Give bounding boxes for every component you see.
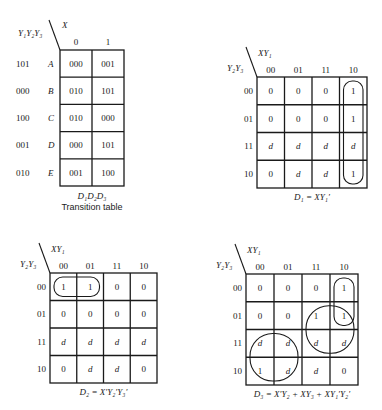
row-header: 01	[37, 309, 46, 319]
kmap-cell: d	[324, 141, 329, 151]
row-variable-label: Y₁Y₂Y₃	[18, 28, 42, 38]
table-caption-variables: D₁D₂D₃	[77, 191, 107, 201]
column-header: 10	[349, 65, 359, 75]
kmap-d2: XY₁Y₂Y₃000111100001111011000000dddd0dd0D…	[20, 243, 157, 397]
kmap-corner-diagonal	[246, 47, 257, 77]
kmap-corner-diagonal	[39, 243, 50, 273]
kmap-cell: 0	[269, 114, 274, 124]
column-header: 0	[74, 37, 79, 47]
table-row: 000 B 010 101	[16, 86, 115, 96]
kmap-cell: 0	[324, 114, 329, 124]
row-header: 11	[37, 337, 46, 347]
kmap-d3: XY₁Y₂Y₃000111100001111000010011dddd1dd0D…	[216, 244, 358, 399]
kmap-cell: 0	[115, 282, 120, 292]
kmap-cell: d	[258, 338, 263, 348]
kmap-equation: D₃ = X′Y₂ + XY₃ + XY₁′Y₂′	[253, 389, 351, 399]
table-row: 010 E 001 100	[16, 168, 115, 178]
kmap-cell: d	[88, 337, 93, 347]
row-header: 10	[37, 364, 47, 374]
table-cell: 010	[69, 113, 83, 123]
diagram-canvas: Y₁Y₂Y₃ X 0 1 101 A 000 001 000 B 010 101…	[0, 0, 382, 410]
kmap-cell: d	[296, 141, 301, 151]
kmap-cell: 0	[141, 364, 146, 374]
kmap-cell: 0	[314, 283, 319, 293]
column-header: 1	[106, 37, 111, 47]
table-row: 100 C 010 000	[16, 113, 115, 123]
kmap-cell: 1	[351, 169, 356, 179]
row-variable-label: Y₂Y₃	[227, 63, 243, 73]
column-variable-label: XY₁	[246, 245, 261, 255]
table-row: 101 A 000 001	[16, 59, 115, 69]
transition-table: Y₁Y₂Y₃ X 0 1 101 A 000 001 000 B 010 101…	[16, 20, 124, 212]
kmap-cell: 1	[342, 311, 347, 321]
kmap-cell: 0	[141, 282, 146, 292]
row-header: 01	[233, 311, 242, 321]
kmap-cell: 0	[269, 169, 274, 179]
column-variable-label: XY₁	[50, 244, 65, 254]
kmap-cell: 0	[286, 283, 291, 293]
table-cell: 000	[69, 140, 83, 150]
kmap-equation: D₂ = X′Y₂′Y₃′	[79, 387, 129, 397]
row-header: 00	[244, 86, 254, 96]
state-code: 001	[16, 140, 30, 150]
row-header: 01	[244, 114, 253, 124]
table-cell: 010	[69, 86, 83, 96]
table-corner-diagonal	[49, 20, 60, 50]
column-header: 11	[312, 262, 321, 272]
column-header: 00	[59, 261, 69, 271]
kmap-cell: d	[141, 337, 146, 347]
kmap-cell: 0	[296, 114, 301, 124]
kmap-cell: d	[314, 366, 319, 376]
kmap-cell: d	[61, 337, 66, 347]
kmap-cell: 0	[115, 309, 120, 319]
table-cell: 001	[101, 59, 115, 69]
state-code: 100	[16, 113, 30, 123]
kmap-cell: d	[351, 141, 356, 151]
table-cell: 001	[69, 168, 83, 178]
column-header: 11	[113, 261, 122, 271]
kmap-cell: d	[269, 141, 274, 151]
row-header: 11	[244, 141, 253, 151]
row-header: 11	[233, 338, 242, 348]
kmap-cell: 0	[258, 311, 263, 321]
column-header: 00	[266, 65, 276, 75]
row-header: 10	[233, 366, 243, 376]
kmap-cell: d	[286, 338, 291, 348]
kmap-cell: 0	[88, 309, 93, 319]
table-cell: 000	[101, 113, 115, 123]
kmap-cell: 0	[342, 366, 347, 376]
kmap-cell: d	[88, 364, 93, 374]
kmap-cell: 1	[351, 114, 356, 124]
column-variable-label: XY₁	[257, 48, 272, 58]
column-header: 01	[294, 65, 303, 75]
row-header: 10	[244, 169, 254, 179]
state-code: 101	[16, 59, 30, 69]
kmap-cell: 1	[88, 282, 93, 292]
column-header: 00	[256, 262, 266, 272]
kmap-equation: D₁ = XY₁′	[293, 192, 331, 202]
kmap-cell: d	[115, 364, 120, 374]
row-variable-label: Y₂Y₃	[216, 260, 232, 270]
state-name: E	[47, 168, 54, 178]
column-variable-label: X	[61, 20, 68, 30]
kmap-cell: d	[342, 338, 347, 348]
row-variable-label: Y₂Y₃	[20, 259, 36, 269]
kmap-cell: d	[324, 169, 329, 179]
column-header: 11	[321, 65, 330, 75]
column-header: 10	[340, 262, 350, 272]
table-cell: 101	[101, 86, 115, 96]
table-cell: 100	[101, 168, 115, 178]
column-header: 01	[86, 261, 95, 271]
state-name: A	[47, 59, 54, 69]
kmap-cell: d	[115, 337, 120, 347]
row-header: 00	[233, 283, 243, 293]
kmap-cell: 0	[296, 86, 301, 96]
kmap-corner-diagonal	[235, 244, 246, 274]
kmap-d1: XY₁Y₂Y₃000111100001111000010001dddd0dd1D…	[227, 47, 367, 202]
kmap-cell: 1	[61, 282, 66, 292]
kmap-cell: 0	[141, 309, 146, 319]
kmap-cell: d	[314, 338, 319, 348]
kmap-cell: 1	[314, 311, 319, 321]
column-header: 01	[284, 262, 293, 272]
state-name: D	[47, 140, 55, 150]
